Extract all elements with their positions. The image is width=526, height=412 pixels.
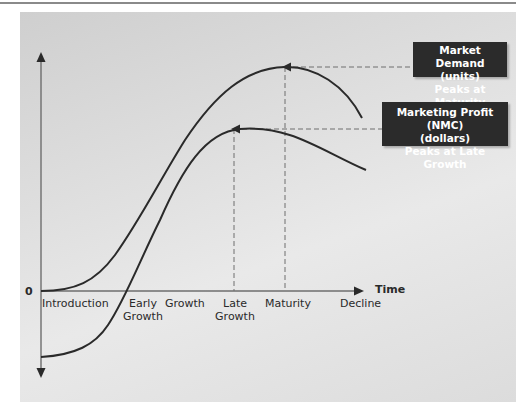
y-axis — [37, 52, 46, 378]
demand-peak-arrow-icon — [282, 63, 291, 72]
marketing-profit-callout: Marketing Profit (NMC) (dollars) Peaks a… — [382, 102, 508, 146]
marketing-profit-callout-unit: (dollars) — [386, 132, 504, 145]
stage-growth: Growth — [165, 297, 205, 310]
guide-lines — [234, 67, 413, 291]
y-axis-up-arrow-icon — [37, 52, 46, 62]
stage-decline: Decline — [340, 297, 381, 310]
profit-peak-arrow-icon — [231, 125, 240, 134]
time-axis-label: Time — [375, 283, 405, 296]
zero-label: 0 — [25, 285, 33, 298]
marketing-profit-callout-title: Marketing Profit (NMC) — [386, 106, 504, 132]
stage-early-growth: Early Growth — [118, 297, 168, 323]
stage-early-growth-line1: Early — [118, 297, 168, 310]
market-demand-callout: Market Demand (units) Peaks at Maturity — [413, 42, 507, 77]
x-axis — [41, 287, 364, 296]
y-axis-down-arrow-icon — [37, 368, 46, 378]
stage-late-growth: Late Growth — [210, 297, 260, 323]
market-demand-callout-unit: (units) — [417, 70, 503, 83]
market-demand-curve — [41, 67, 362, 291]
x-axis-arrow-icon — [354, 287, 364, 296]
stage-late-growth-line1: Late — [210, 297, 260, 310]
marketing-profit-callout-peak: Peaks at Late Growth — [386, 145, 504, 171]
marketing-profit-curve — [41, 129, 366, 357]
stage-early-growth-line2: Growth — [118, 310, 168, 323]
market-demand-callout-title: Market Demand — [417, 44, 503, 70]
stage-introduction: Introduction — [42, 297, 109, 310]
stage-late-growth-line2: Growth — [210, 310, 260, 323]
stage-maturity: Maturity — [265, 297, 311, 310]
